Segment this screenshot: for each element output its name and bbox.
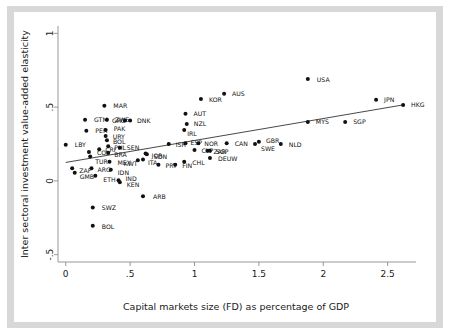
data-point: JPN	[374, 96, 395, 104]
data-point-group: LBYZAFGMBGTMPERCOLTURARGSWZBOLETHCRIMARP…	[64, 76, 425, 230]
x-axis-title: Capital markets size (FD) as percentage …	[123, 301, 349, 312]
data-point-label: HKG	[411, 101, 425, 108]
data-point-marker	[105, 138, 109, 142]
x-tick-label: 1	[192, 269, 198, 279]
data-point-label: BRA	[114, 151, 127, 158]
data-point-marker	[222, 92, 226, 96]
data-point: BOL	[91, 223, 115, 230]
data-point-label: SDN	[154, 153, 168, 160]
figure-container: Capital markets size (FD) as percentage …	[0, 0, 450, 335]
data-point: MYS	[306, 118, 329, 125]
data-point: GRC	[112, 117, 127, 124]
data-point-marker	[91, 205, 95, 209]
x-tick-label: .5	[126, 269, 135, 279]
data-point-marker	[199, 97, 203, 101]
data-point-marker	[193, 148, 197, 152]
data-point-label: LBY	[75, 141, 86, 148]
data-point: HKG	[401, 101, 425, 108]
data-point-marker	[225, 141, 229, 145]
data-point-marker	[102, 104, 106, 108]
data-point-label: GBR	[266, 137, 280, 144]
data-point-label: SWZ	[102, 204, 116, 211]
data-point-label: IRL	[187, 130, 197, 137]
data-point-marker	[343, 120, 347, 124]
data-point: NLD	[279, 141, 302, 148]
data-point: BRA	[106, 151, 127, 158]
data-point-marker	[145, 152, 149, 156]
data-point-marker	[141, 194, 145, 198]
data-point-label: CHL	[192, 159, 205, 166]
data-point-marker	[106, 151, 110, 155]
data-point-label: ETH	[103, 176, 116, 183]
data-point-marker	[196, 141, 200, 145]
data-point-marker	[185, 122, 189, 126]
x-tick-label: 0	[63, 269, 69, 279]
data-point-marker	[97, 147, 101, 151]
data-point-marker	[182, 160, 186, 164]
data-point: KOR	[199, 96, 223, 103]
data-point: ETH	[93, 174, 116, 184]
data-point-marker	[87, 150, 91, 154]
data-point-marker	[104, 128, 108, 132]
data-point-label: DNK	[137, 117, 151, 124]
data-point-marker	[183, 112, 187, 116]
data-point-marker	[253, 142, 257, 146]
data-point-marker	[208, 156, 212, 160]
data-point: CAN	[225, 140, 249, 147]
data-point-label: SEN	[127, 144, 140, 151]
data-point-marker	[128, 118, 132, 122]
data-point: SGP	[343, 118, 366, 125]
data-point: DNK	[128, 117, 151, 124]
data-point-label: ESP	[190, 139, 202, 146]
data-point-label: AUS	[232, 90, 245, 97]
data-point-label: JPN	[383, 96, 395, 104]
data-point: IRL	[182, 128, 197, 138]
data-point-label: TUR	[94, 158, 108, 165]
data-point-marker	[91, 224, 95, 228]
data-point-marker	[93, 174, 97, 178]
data-point-label: USA	[317, 76, 331, 83]
x-tick-label: 2	[320, 269, 326, 279]
data-point: MAR	[102, 102, 128, 109]
y-tick-label: -.5	[45, 249, 55, 261]
data-point-label: KOR	[209, 96, 223, 103]
data-point-marker	[108, 160, 112, 164]
data-point: ISR	[167, 141, 187, 148]
data-point-marker	[173, 163, 177, 167]
scatter-plot: Capital markets size (FD) as percentage …	[0, 0, 450, 335]
data-point-label: NLD	[289, 141, 302, 148]
data-point-marker	[118, 146, 122, 150]
data-point-label: ITA	[148, 159, 158, 166]
data-point: ARB	[141, 193, 166, 200]
data-point: AUT	[183, 110, 206, 117]
data-point-label: SGP	[353, 118, 366, 125]
data-point-label: DEUW	[218, 155, 237, 162]
x-tick-label: 1.5	[252, 269, 266, 279]
data-point: SWZ	[91, 204, 116, 211]
data-point-marker	[118, 180, 122, 184]
data-point-marker	[183, 141, 187, 145]
data-point-marker	[109, 168, 113, 172]
data-point-marker	[208, 149, 212, 153]
data-point-marker	[84, 129, 88, 133]
data-point-label: AUT	[193, 110, 206, 117]
data-point: GTM	[83, 116, 108, 123]
y-tick-label: 0	[45, 178, 55, 184]
y-axis-title: Inter sectoral investment value-added el…	[19, 30, 30, 258]
data-point: USA	[306, 76, 331, 83]
data-point-marker	[306, 77, 310, 81]
data-point-label: NZL	[194, 120, 207, 127]
data-point-marker	[257, 140, 261, 144]
data-point: DEUW	[208, 155, 237, 162]
data-point: NZL	[185, 120, 207, 127]
data-point-label: KEN	[127, 181, 140, 188]
data-point-label: MAR	[113, 102, 128, 109]
y-tick-label: .5	[45, 103, 55, 112]
data-point-label: ARB	[153, 193, 166, 200]
data-point-label: PAK	[114, 125, 127, 132]
y-tick-label: 1	[45, 31, 55, 37]
data-point-label: KWT	[124, 160, 138, 167]
data-point-marker	[105, 118, 109, 122]
data-point-marker	[141, 157, 145, 161]
data-point-marker	[182, 128, 186, 132]
